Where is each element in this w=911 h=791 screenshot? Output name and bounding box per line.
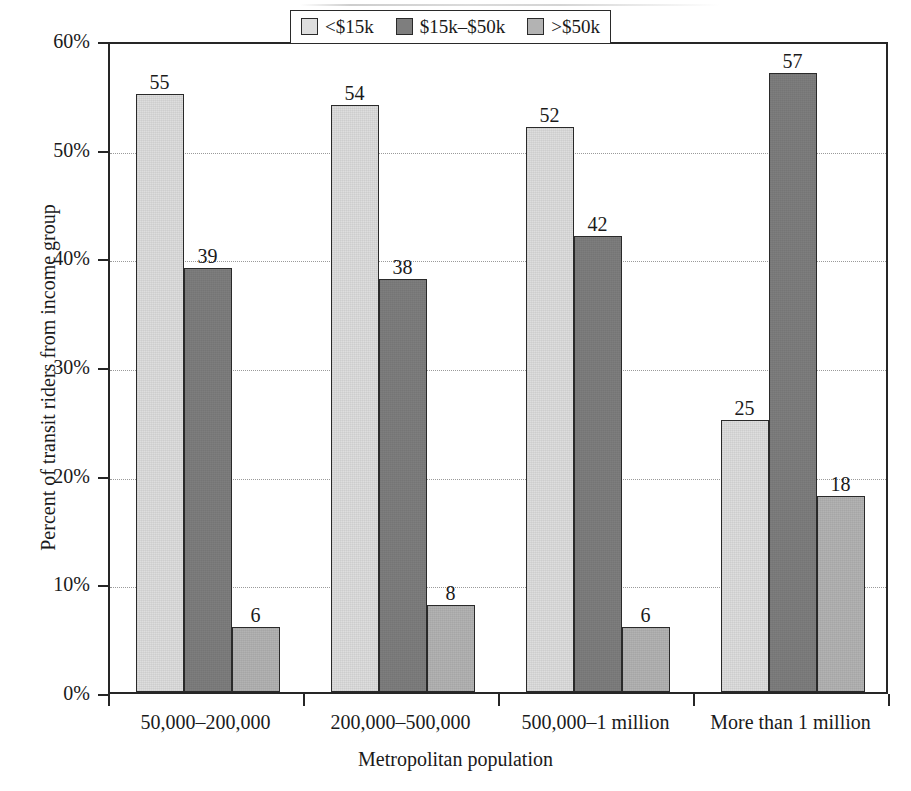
- legend-swatch-icon: [396, 18, 413, 35]
- legend-label: $15k–$50k: [420, 17, 506, 36]
- bar: 6: [232, 627, 280, 692]
- bar: 6: [622, 627, 670, 692]
- y-axis-tick: [98, 368, 108, 370]
- bar-value-label: 39: [198, 246, 218, 266]
- legend-swatch-icon: [301, 18, 318, 35]
- bar-value-label: 18: [831, 474, 851, 494]
- bar: 39: [184, 268, 232, 692]
- bar-value-label: 25: [735, 398, 755, 418]
- bar: 55: [136, 94, 184, 692]
- legend-item: <$15k: [301, 17, 374, 36]
- x-axis-tick: [498, 694, 500, 706]
- bar: 54: [331, 105, 379, 692]
- x-axis-category-label: 200,000–500,000: [303, 712, 498, 732]
- y-axis-tick-label: 0%: [63, 683, 90, 703]
- bar-value-label: 55: [150, 72, 170, 92]
- x-axis-tick: [303, 694, 305, 706]
- bar-value-label: 38: [393, 257, 413, 277]
- bar: 8: [427, 605, 475, 692]
- x-axis-tick: [108, 694, 110, 706]
- bar-value-label: 57: [783, 51, 803, 71]
- legend-swatch-icon: [527, 18, 544, 35]
- y-axis-tick: [98, 694, 108, 696]
- bar: 52: [526, 127, 574, 692]
- y-axis-tick-label: 60%: [53, 31, 90, 51]
- legend-label: <$15k: [325, 17, 374, 36]
- y-axis-tick: [98, 585, 108, 587]
- y-axis-tick: [98, 151, 108, 153]
- legend-item: $15k–$50k: [396, 17, 506, 36]
- bar-value-label: 6: [251, 605, 261, 625]
- x-axis-tick: [693, 694, 695, 706]
- bar-value-label: 54: [345, 83, 365, 103]
- y-axis-title: Percent of transit riders from income gr…: [37, 68, 60, 688]
- bar-value-label: 42: [588, 214, 608, 234]
- bar: 25: [721, 420, 769, 692]
- bar-value-label: 8: [446, 583, 456, 603]
- bar: 57: [769, 73, 817, 692]
- legend-item: >$50k: [527, 17, 600, 36]
- plot-area: 553965438852426255718: [108, 42, 888, 694]
- x-axis-tick: [888, 694, 890, 706]
- x-axis-category-label: 50,000–200,000: [108, 712, 303, 732]
- legend: <$15k$15k–$50k>$50k: [290, 10, 611, 44]
- bar-value-label: 52: [540, 105, 560, 125]
- x-axis-title: Metropolitan population: [0, 748, 911, 771]
- y-axis-tick: [98, 477, 108, 479]
- y-axis-tick: [98, 259, 108, 261]
- bar-chart-figure: 0%10%20%30%40%50%60% Percent of transit …: [0, 0, 911, 791]
- bar-value-label: 6: [641, 605, 651, 625]
- x-axis-category-label: More than 1 million: [693, 712, 888, 732]
- x-axis-category-label: 500,000–1 million: [498, 712, 693, 732]
- y-axis-tick: [98, 42, 108, 44]
- bar: 38: [379, 279, 427, 692]
- legend-label: >$50k: [551, 17, 600, 36]
- scan-artifact: [300, 4, 720, 6]
- bar: 42: [574, 236, 622, 692]
- bar: 18: [817, 496, 865, 692]
